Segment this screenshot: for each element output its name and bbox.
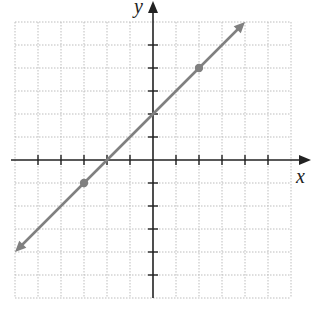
axes (11, 1, 311, 298)
y-axis-label: y (134, 0, 143, 16)
coordinate-plane (0, 0, 313, 313)
x-axis-label: x (296, 166, 305, 186)
